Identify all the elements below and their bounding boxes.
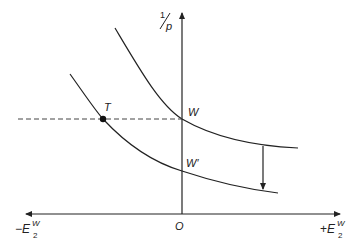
y-axis-label-numerator: 1 — [160, 10, 165, 20]
x-axis-left-label: −E W 2 — [15, 219, 41, 240]
upper-curve — [115, 28, 298, 148]
right-sup: W — [337, 219, 346, 228]
right-sign: + — [320, 222, 327, 236]
y-axis-label: 1 p — [160, 10, 172, 32]
lower-curve — [70, 74, 278, 193]
origin-label: O — [175, 220, 184, 232]
left-sub: 2 — [33, 231, 38, 240]
point-w-prime-label: W′ — [186, 157, 199, 169]
point-t-marker — [100, 116, 106, 122]
left-sup: W — [32, 219, 41, 228]
diagram-canvas: T W W′ O 1 p −E W 2 +E W 2 — [0, 0, 358, 251]
left-sign: − — [15, 222, 22, 236]
left-base: E — [22, 222, 31, 236]
right-base: E — [327, 222, 336, 236]
x-axis-right-label: +E W 2 — [320, 219, 346, 240]
point-t-label: T — [104, 101, 112, 113]
y-axis-label-denominator: p — [165, 20, 172, 32]
svg-text:+E: +E — [320, 222, 336, 236]
point-w-label: W — [188, 106, 200, 118]
svg-text:−E: −E — [15, 222, 31, 236]
right-sub: 2 — [338, 231, 343, 240]
